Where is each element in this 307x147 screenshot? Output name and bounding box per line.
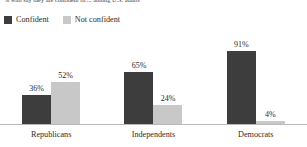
bar-group: 36%52% — [0, 30, 102, 124]
chart-subtitle: % who say they are confident in ... amon… — [4, 0, 140, 4]
bar[interactable] — [22, 95, 51, 124]
bar-value-label: 52% — [58, 71, 73, 80]
bar-pair: 91%4% — [227, 30, 285, 124]
bar[interactable] — [153, 105, 182, 124]
bar-slot: 52% — [51, 30, 80, 124]
bar-slot: 36% — [22, 30, 51, 124]
legend-item-not-confident[interactable]: Not confident — [63, 14, 120, 25]
bar-slot: 24% — [153, 30, 182, 124]
bar-slot: 65% — [124, 30, 153, 124]
bar-group: 91%4% — [205, 30, 307, 124]
bar-value-label: 24% — [161, 94, 176, 103]
legend-swatch-not-confident-icon — [63, 16, 71, 24]
legend-label-not-confident: Not confident — [75, 15, 120, 24]
bar-value-label: 36% — [29, 84, 44, 93]
bar-slot: 4% — [256, 30, 285, 124]
legend-swatch-confident-icon — [4, 16, 12, 24]
legend-item-confident[interactable]: Confident — [4, 14, 49, 25]
bar-value-label: 65% — [132, 61, 147, 70]
x-axis-baseline — [0, 124, 307, 125]
category-label: Democrats — [205, 130, 307, 144]
chart-subtitle-clipped: % who say they are confident in ... amon… — [4, 0, 234, 7]
category-labels: RepublicansIndependentsDemocrats — [0, 130, 307, 144]
bar[interactable] — [51, 82, 80, 124]
bar[interactable] — [227, 51, 256, 124]
bar-pair: 36%52% — [22, 30, 80, 124]
category-label: Republicans — [0, 130, 102, 144]
bar-value-label: 91% — [234, 40, 249, 49]
chart-legend: Confident Not confident — [4, 14, 120, 25]
legend-label-confident: Confident — [16, 15, 49, 24]
plot-area: 36%52%65%24%91%4% — [0, 30, 307, 125]
grouped-bar-chart: % who say they are confident in ... amon… — [0, 0, 307, 147]
bar-value-label: 4% — [265, 110, 276, 119]
bar[interactable] — [124, 72, 153, 124]
category-label: Independents — [102, 130, 204, 144]
bar-groups: 36%52%65%24%91%4% — [0, 30, 307, 124]
bar-group: 65%24% — [102, 30, 204, 124]
bar-slot: 91% — [227, 30, 256, 124]
bar-pair: 65%24% — [124, 30, 182, 124]
